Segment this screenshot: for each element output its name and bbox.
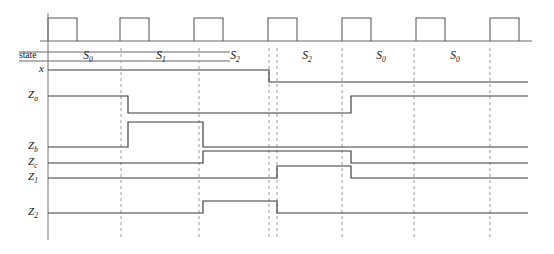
clock-waveform <box>48 18 519 41</box>
state-label-5-sub: 0 <box>456 55 460 64</box>
state-label-0: S0 <box>78 50 98 64</box>
row-label-z2: Z2 <box>28 206 38 220</box>
row-label-x: x <box>39 63 44 74</box>
state-label-1: S1 <box>151 50 171 64</box>
row-label-state: state <box>19 51 36 61</box>
row-label-zb-sub: b <box>34 145 38 154</box>
row-label-x-text: x <box>39 62 44 74</box>
row-label-za: Za <box>28 89 38 103</box>
state-label-3: S2 <box>297 50 317 64</box>
row-label-zc: Zc <box>28 156 37 170</box>
signal-za-waveform <box>48 96 528 113</box>
signal-x-waveform <box>48 70 528 82</box>
signal-z2-waveform <box>48 201 528 213</box>
signal-zc-waveform <box>48 151 528 163</box>
state-label-4: S0 <box>371 50 391 64</box>
signal-z1-waveform <box>48 166 528 178</box>
state-label-2-sub: 2 <box>236 55 240 64</box>
row-label-zc-sub: c <box>34 161 37 170</box>
row-label-z1: Z1 <box>28 171 38 185</box>
signal-zb-waveform <box>48 122 528 147</box>
timing-diagram-canvas <box>0 0 554 254</box>
row-label-z1-sub: 1 <box>34 176 38 185</box>
timing-diagram-figure: state x Za Zb Zc Z1 Z2 S0 S1 S2 S2 S0 S0 <box>0 0 554 254</box>
row-label-za-sub: a <box>34 94 38 103</box>
state-label-2: S2 <box>225 50 245 64</box>
state-label-0-sub: 0 <box>89 55 93 64</box>
state-label-3-sub: 2 <box>308 55 312 64</box>
state-label-1-sub: 1 <box>162 55 166 64</box>
state-label-5: S0 <box>445 50 465 64</box>
row-label-z2-sub: 2 <box>34 211 38 220</box>
row-label-zb: Zb <box>28 140 38 154</box>
state-label-4-sub: 0 <box>382 55 386 64</box>
